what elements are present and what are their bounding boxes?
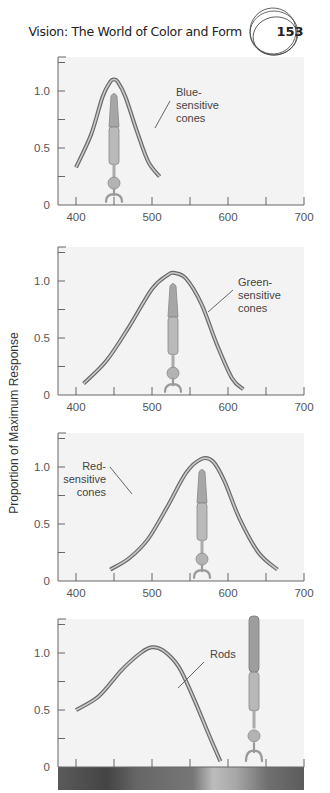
y-tick-label: 1.0: [34, 85, 50, 97]
plot-area: [58, 57, 304, 205]
x-tick-label: 400: [66, 211, 85, 223]
x-tick-label: 600: [218, 587, 237, 599]
chart-red-cones: 00.51.0400500600700Red-sensitivecones: [0, 429, 330, 619]
y-tick-label: 0: [44, 575, 50, 587]
y-tick-label: 0.5: [34, 142, 50, 154]
x-tick-label: 400: [66, 401, 85, 413]
plot-area: [58, 619, 304, 767]
y-tick-label: 0.5: [34, 518, 50, 530]
y-tick-label: 0: [44, 389, 50, 401]
x-tick-label: 400: [66, 587, 85, 599]
visible-spectrum-bar: [58, 767, 304, 790]
page-number: 153: [270, 24, 310, 39]
y-tick-label: 1.0: [34, 275, 50, 287]
x-tick-label: 600: [218, 211, 237, 223]
x-tick-label: 500: [142, 587, 161, 599]
running-title: Vision: The World of Color and Form: [28, 24, 242, 39]
y-tick-label: 1.0: [34, 461, 50, 473]
x-tick-label: 500: [142, 211, 161, 223]
y-tick-label: 0.5: [34, 332, 50, 344]
y-tick-label: 0: [44, 199, 50, 211]
y-tick-label: 0.5: [34, 704, 50, 716]
x-tick-label: 600: [218, 401, 237, 413]
x-tick-label: 700: [294, 401, 313, 413]
chart-blue-cones: 00.51.0400500600700Blue-sensitivecones: [0, 53, 330, 243]
x-tick-label: 700: [294, 211, 313, 223]
plot-area: [58, 433, 304, 581]
y-tick-label: 0: [44, 761, 50, 773]
x-tick-label: 500: [142, 401, 161, 413]
y-tick-label: 1.0: [34, 647, 50, 659]
annotation-rods: Rods: [210, 648, 236, 660]
x-tick-label: 700: [294, 587, 313, 599]
chart-rods: 00.51.0Rods: [0, 615, 330, 793]
chart-green-cones: 00.51.0400500600700Green-sensitivecones: [0, 243, 330, 433]
